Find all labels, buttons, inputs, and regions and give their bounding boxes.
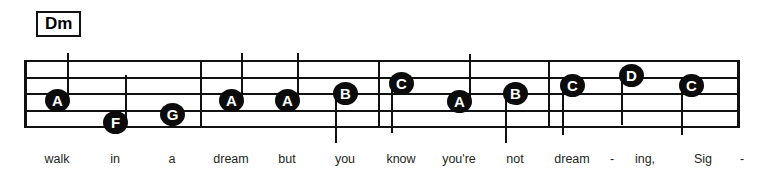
staff-line-5 bbox=[24, 126, 737, 128]
lyric-syllable-11: - bbox=[610, 152, 614, 166]
notehead-a-5[interactable]: A bbox=[275, 89, 300, 112]
notehead-c-7[interactable]: C bbox=[389, 72, 414, 95]
lyric-syllable-1: walk bbox=[44, 152, 69, 166]
notehead-c-12[interactable]: C bbox=[679, 74, 704, 97]
notehead-g-3[interactable]: G bbox=[160, 103, 185, 126]
lyric-syllable-3: a bbox=[169, 152, 176, 166]
barline-3 bbox=[378, 60, 380, 128]
barline-2 bbox=[200, 60, 202, 128]
notehead-a-1[interactable]: A bbox=[45, 89, 70, 112]
staff-line-3 bbox=[24, 93, 737, 95]
lyric-syllable-5: but bbox=[278, 152, 295, 166]
lyric-syllable-14: - bbox=[740, 152, 744, 166]
barline-4 bbox=[548, 60, 550, 128]
lyric-syllable-2: in bbox=[110, 152, 120, 166]
lyric-syllable-6: you bbox=[335, 152, 355, 166]
staff-line-1 bbox=[24, 60, 737, 62]
lyric-syllable-10: dream bbox=[554, 152, 589, 166]
staff-line-4 bbox=[24, 110, 737, 112]
barline-5 bbox=[737, 60, 740, 128]
lyric-syllable-13: Sig bbox=[694, 152, 712, 166]
barline-1 bbox=[24, 60, 27, 128]
lyric-syllable-12: ing, bbox=[635, 152, 655, 166]
notehead-d-11[interactable]: D bbox=[619, 64, 644, 87]
lyric-syllable-9: not bbox=[506, 152, 523, 166]
notehead-f-2[interactable]: F bbox=[103, 111, 128, 134]
lyric-syllable-7: know bbox=[386, 152, 415, 166]
chord-symbol-dm[interactable]: Dm bbox=[36, 11, 81, 37]
music-notation-sheet: Dm walkinadreambutyouknowyou'renotdream-… bbox=[0, 0, 766, 184]
notehead-a-8[interactable]: A bbox=[447, 90, 472, 113]
notehead-b-9[interactable]: B bbox=[503, 82, 528, 105]
notehead-c-10[interactable]: C bbox=[560, 74, 585, 97]
notehead-b-6[interactable]: B bbox=[333, 82, 358, 105]
notehead-a-4[interactable]: A bbox=[219, 89, 244, 112]
lyric-syllable-4: dream bbox=[213, 152, 248, 166]
lyric-syllable-8: you're bbox=[442, 152, 476, 166]
